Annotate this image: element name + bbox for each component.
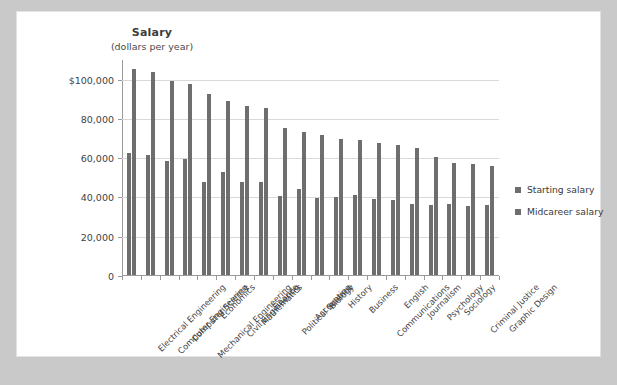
bar-group[interactable]: [391, 145, 400, 275]
chart-subtitle: (dollars per year): [52, 41, 252, 52]
legend-item[interactable]: Starting salary: [515, 184, 603, 195]
x-tick-mark: [311, 276, 312, 280]
bar-starting-salary[interactable]: [410, 204, 414, 275]
gridline: [122, 158, 499, 159]
gridline: [122, 237, 499, 238]
x-tick-mark: [141, 276, 142, 280]
bar-midcareer-salary[interactable]: [170, 81, 174, 275]
x-tick-mark: [442, 276, 443, 280]
bar-group[interactable]: [372, 143, 381, 275]
bar-group[interactable]: [278, 128, 287, 275]
bar-group[interactable]: [165, 81, 174, 275]
y-axis-line: [122, 60, 123, 276]
x-tick-mark: [480, 276, 481, 280]
bar-midcareer-salary[interactable]: [471, 164, 475, 275]
bar-midcareer-salary[interactable]: [283, 128, 287, 275]
plot-area: 020,00040,00060,00080,000$100,000: [122, 60, 499, 276]
y-tick-label: 80,000: [34, 113, 114, 124]
bar-starting-salary[interactable]: [315, 198, 319, 275]
bar-midcareer-salary[interactable]: [415, 148, 419, 275]
bar-group[interactable]: [297, 132, 306, 275]
bar-midcareer-salary[interactable]: [226, 101, 230, 275]
y-tick-mark: [118, 119, 122, 120]
bar-group[interactable]: [447, 163, 456, 275]
bar-midcareer-salary[interactable]: [377, 143, 381, 275]
bar-starting-salary[interactable]: [334, 197, 338, 275]
chart-title-block: Salary (dollars per year): [52, 26, 252, 52]
gridline: [122, 119, 499, 120]
x-tick-mark: [499, 276, 500, 280]
bar-starting-salary[interactable]: [353, 195, 357, 276]
y-tick-label: 60,000: [34, 153, 114, 164]
x-tick-mark: [348, 276, 349, 280]
x-tick-mark: [235, 276, 236, 280]
x-tick-mark: [197, 276, 198, 280]
bar-starting-salary[interactable]: [485, 205, 489, 275]
gridline: [122, 197, 499, 198]
bar-midcareer-salary[interactable]: [490, 166, 494, 275]
legend-item[interactable]: Midcareer salary: [515, 206, 603, 217]
y-tick-mark: [118, 80, 122, 81]
bar-midcareer-salary[interactable]: [452, 163, 456, 275]
bar-group[interactable]: [183, 84, 192, 275]
gridline: [122, 80, 499, 81]
bar-starting-salary[interactable]: [202, 182, 206, 275]
chart-panel: Salary (dollars per year) 020,00040,0006…: [17, 12, 600, 356]
bar-group[interactable]: [127, 69, 136, 275]
bar-group[interactable]: [466, 164, 475, 275]
y-tick-label: 20,000: [34, 231, 114, 242]
bar-group[interactable]: [485, 166, 494, 275]
bar-midcareer-salary[interactable]: [151, 72, 155, 275]
x-tick-mark: [292, 276, 293, 280]
legend-swatch-icon: [515, 187, 521, 193]
bar-starting-salary[interactable]: [183, 159, 187, 275]
legend-label: Starting salary: [527, 184, 594, 195]
bar-group[interactable]: [315, 135, 324, 275]
bar-group[interactable]: [353, 140, 362, 275]
y-tick-label: 0: [34, 271, 114, 282]
bar-starting-salary[interactable]: [259, 182, 263, 275]
bar-midcareer-salary[interactable]: [396, 145, 400, 275]
bar-midcareer-salary[interactable]: [245, 106, 249, 275]
bar-group[interactable]: [259, 108, 268, 275]
bar-midcareer-salary[interactable]: [207, 94, 211, 275]
bar-starting-salary[interactable]: [165, 161, 169, 275]
bar-starting-salary[interactable]: [447, 204, 451, 275]
x-tick-mark: [329, 276, 330, 280]
bar-group[interactable]: [146, 72, 155, 275]
y-tick-label: 40,000: [34, 192, 114, 203]
bar-group[interactable]: [202, 94, 211, 275]
x-tick-mark: [160, 276, 161, 280]
bar-starting-salary[interactable]: [429, 205, 433, 275]
bar-midcareer-salary[interactable]: [320, 135, 324, 275]
x-tick-mark: [367, 276, 368, 280]
bar-starting-salary[interactable]: [127, 153, 131, 275]
bar-midcareer-salary[interactable]: [339, 139, 343, 275]
legend-label: Midcareer salary: [527, 206, 603, 217]
bar-midcareer-salary[interactable]: [358, 140, 362, 275]
bar-starting-salary[interactable]: [466, 206, 470, 275]
bar-starting-salary[interactable]: [297, 189, 301, 275]
bar-starting-salary[interactable]: [391, 200, 395, 275]
x-tick-mark: [461, 276, 462, 280]
bar-starting-salary[interactable]: [240, 182, 244, 275]
y-tick-mark: [118, 237, 122, 238]
bar-group[interactable]: [221, 101, 230, 275]
bar-starting-salary[interactable]: [278, 196, 282, 275]
bar-group[interactable]: [334, 139, 343, 275]
bar-midcareer-salary[interactable]: [434, 157, 438, 275]
y-tick-mark: [118, 158, 122, 159]
bar-midcareer-salary[interactable]: [188, 84, 192, 275]
bar-group[interactable]: [410, 148, 419, 275]
bar-group[interactable]: [240, 106, 249, 275]
bar-midcareer-salary[interactable]: [264, 108, 268, 275]
bar-starting-salary[interactable]: [372, 199, 376, 275]
x-tick-mark: [254, 276, 255, 280]
bar-midcareer-salary[interactable]: [302, 132, 306, 275]
bar-starting-salary[interactable]: [221, 172, 225, 275]
bar-midcareer-salary[interactable]: [132, 69, 136, 275]
bar-group[interactable]: [429, 157, 438, 275]
x-tick-mark: [179, 276, 180, 280]
bar-starting-salary[interactable]: [146, 155, 150, 275]
y-tick-label: $100,000: [34, 74, 114, 85]
